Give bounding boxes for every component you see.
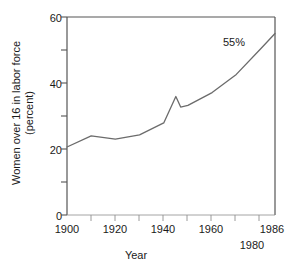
x-axis-ticks	[91, 215, 259, 221]
chart-figure: Women over 16 in labor force (percent) 6…	[0, 0, 300, 272]
data-series-line	[67, 34, 275, 148]
value-label-55-percent: 55%	[223, 36, 245, 48]
plot-area: 55%	[0, 0, 300, 272]
y-axis-ticks	[61, 17, 67, 215]
